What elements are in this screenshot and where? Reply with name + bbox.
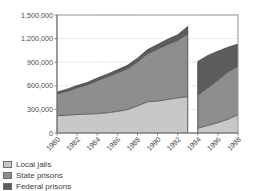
legend-label-federal-prisons: Federal prisons [16, 182, 71, 191]
legend-swatch-state-prisons [3, 172, 12, 179]
legend-swatch-local-jails [3, 161, 12, 168]
y-axis-tick-label: 600,000 [27, 81, 53, 90]
y-axis-tick-label: 300,000 [27, 105, 53, 114]
x-axis-tick-label: 1986 [105, 135, 123, 153]
legend-label-state-prisons: State prisons [16, 171, 63, 180]
x-axis-tick-label: 1980 [44, 135, 62, 153]
x-axis-tick-label: 1992 [165, 135, 183, 153]
legend-label-local-jails: Local jails [16, 160, 51, 169]
x-axis-tick-label: 1994 [185, 135, 203, 153]
stacked-area-chart: 0300,000600,000900,0001,200,0001,500,000… [0, 0, 253, 160]
y-axis-tick-label: 0 [49, 129, 53, 138]
x-axis-tick-label: 1984 [84, 135, 102, 153]
x-axis-tick-label: 1990 [145, 135, 163, 153]
x-axis-tick-label: 1988 [125, 135, 143, 153]
chart-figure: 0300,000600,000900,0001,200,0001,500,000… [0, 0, 253, 191]
x-axis-tick-label: 1982 [64, 135, 82, 153]
y-axis-tick-label: 900,000 [27, 58, 53, 67]
chart-legend: Local jails State prisons Federal prison… [3, 159, 153, 191]
legend-item-state-prisons: State prisons [3, 170, 153, 180]
x-axis-tick-label: 1998 [225, 135, 243, 153]
x-axis-tick-label: 1996 [205, 135, 223, 153]
legend-item-federal-prisons: Federal prisons [3, 181, 153, 191]
y-axis-tick-label: 1,200,000 [21, 34, 53, 43]
y-axis-tick-label: 1,500,000 [21, 11, 53, 20]
legend-item-local-jails: Local jails [3, 159, 153, 169]
legend-swatch-federal-prisons [3, 183, 12, 190]
